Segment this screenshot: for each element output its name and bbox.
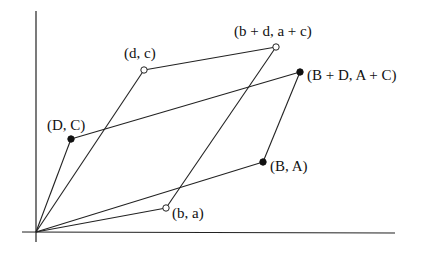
label-b-a: (b, a) [172, 205, 204, 222]
vector-sum-diagram: (b, a) (d, c) (b + d, a + c) (B, A) (D, … [0, 0, 423, 253]
edge-b-a-to-sum [166, 47, 276, 208]
edge-D-C-to-sum [71, 72, 300, 139]
label-d-c: (d, c) [124, 45, 156, 62]
vector-origin-to-d-c [36, 70, 144, 232]
edge-B-A-to-sum [263, 72, 300, 162]
label-B-plus-D-A-plus-C: (B + D, A + C) [307, 67, 396, 84]
label-B-A: (B, A) [270, 158, 308, 175]
vector-origin-to-B-A [36, 162, 263, 232]
open-point-d-c [141, 67, 147, 73]
vector-origin-to-D-C [36, 139, 71, 232]
x-axis [22, 232, 395, 233]
filled-point-B-A [260, 159, 266, 165]
filled-point-B-plus-D-A-plus-C [297, 69, 303, 75]
label-b-plus-d-a-plus-c: (b + d, a + c) [234, 23, 312, 40]
open-point-b-plus-d-a-plus-c [273, 44, 279, 50]
filled-point-D-C [68, 136, 74, 142]
open-point-b-a [163, 205, 169, 211]
edge-d-c-to-sum [144, 47, 276, 70]
label-D-C: (D, C) [47, 117, 85, 134]
